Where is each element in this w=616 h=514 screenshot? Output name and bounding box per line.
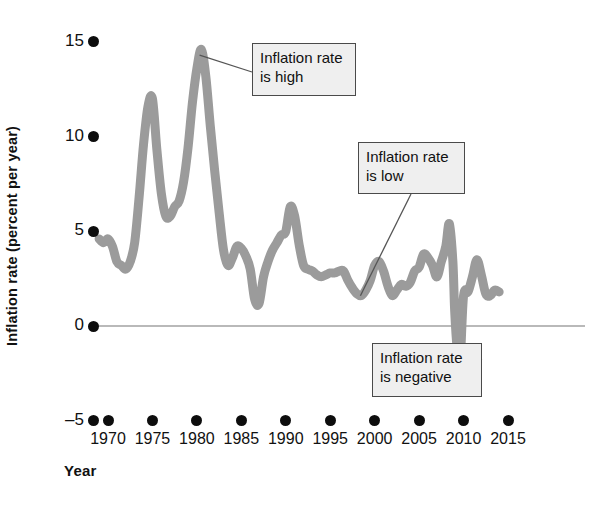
y-tick-label-0: 0 (40, 315, 84, 335)
y-tick-dot-5 (88, 226, 99, 237)
y-tick-label-10: 10 (40, 126, 84, 146)
y-tick-dot-0 (88, 321, 99, 332)
y-tick-label--5: –5 (40, 410, 84, 430)
callout-inflation-high: Inflation rate is high (252, 43, 356, 96)
x-tick-dot-2005 (414, 415, 425, 426)
x-tick-dot-2015 (503, 415, 514, 426)
y-tick-label-5: 5 (40, 220, 84, 240)
x-tick-dot-1985 (236, 415, 247, 426)
callout-inflation-negative: Inflation rate is negative (372, 343, 482, 397)
x-tick-dot-1995 (325, 415, 336, 426)
x-tick-label-2015: 2015 (482, 430, 534, 448)
x-tick-dot-1970 (103, 415, 114, 426)
inflation-rate-line (99, 49, 499, 367)
callout-inflation-low: Inflation rate is low (358, 142, 465, 194)
y-tick-label-15: 15 (40, 31, 84, 51)
inflation-rate-chart: Inflation rate (percent per year) Year –… (0, 0, 616, 514)
